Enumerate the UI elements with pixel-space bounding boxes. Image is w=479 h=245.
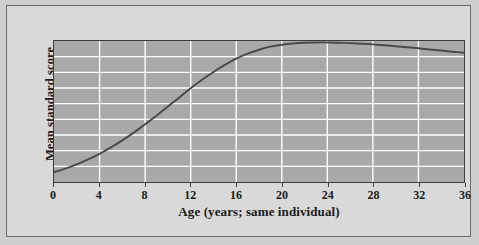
x-tick-label: 0 (50, 187, 56, 203)
x-tick-label: 12 (184, 187, 196, 203)
x-tick-label: 20 (276, 187, 288, 203)
x-tick-label: 4 (96, 187, 102, 203)
x-tick-label: 36 (459, 187, 471, 203)
x-tick-label: 16 (230, 187, 242, 203)
x-tick-label: 32 (413, 187, 425, 203)
plot-area (53, 40, 465, 183)
data-curve (54, 41, 464, 182)
x-tick-label: 28 (367, 187, 379, 203)
figure-frame: Mean standard score 04812162024283236 Ag… (6, 5, 471, 237)
x-tick-label: 24 (322, 187, 334, 203)
x-tick-label: 8 (142, 187, 148, 203)
x-axis-tick-labels: 04812162024283236 (53, 187, 465, 203)
x-axis-title: Age (years; same individual) (53, 204, 465, 220)
